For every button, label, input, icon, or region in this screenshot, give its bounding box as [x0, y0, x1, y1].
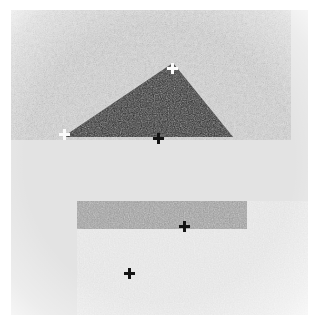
plus-vertical-stroke: [128, 268, 131, 279]
gray-bar: [77, 201, 247, 229]
plus-vertical-stroke: [157, 133, 160, 144]
scene-root: [0, 0, 319, 325]
noisy-image-canvas: [11, 10, 308, 315]
dark-triangle: [11, 10, 308, 315]
plus-vertical-stroke: [183, 221, 186, 232]
background-point-marker: [124, 268, 135, 279]
triangle-left-vertex-marker: [59, 129, 70, 140]
plus-vertical-stroke: [171, 63, 174, 74]
bar-bottom-edge-marker: [179, 221, 190, 232]
triangle-base-edge-marker: [153, 133, 164, 144]
triangle-apex-marker: [167, 63, 178, 74]
plus-vertical-stroke: [63, 129, 66, 140]
